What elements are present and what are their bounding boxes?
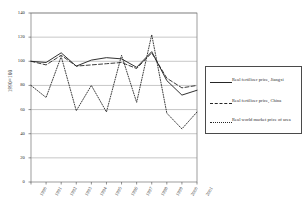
y-axis-tick-label: 120 [7,34,25,39]
legend-label-jiangxi: Real fertilizer price, Jiangxi [232,77,284,83]
y-axis-tick-label: 60 [7,107,25,112]
dotted-line-sample [210,118,232,126]
y-axis-tick-label: 140 [7,10,25,15]
solid-line-sample [210,78,232,86]
y-axis-tick-label: 40 [7,131,25,136]
chart-figure: 1990=100 Real fertilizer price, Jiangxi … [0,0,306,219]
y-axis-tick-label: 80 [7,82,25,87]
legend-entry-urea: Real world market price of urea [210,117,302,126]
legend-label-urea: Real world market price of urea [232,117,291,123]
legend-entry-jiangxi: Real fertilizer price, Jiangxi [210,77,302,86]
y-axis-tick-label: 100 [7,58,25,63]
chart-legend: Real fertilizer price, Jiangxi Real fert… [205,66,302,134]
legend-entry-china: Real fertilizer price, China [210,98,302,107]
y-axis-tick-label: 20 [7,155,25,160]
y-axis-tick-label: 0 [7,179,25,184]
legend-label-china: Real fertilizer price, China [232,98,281,104]
dashed-line-sample [210,99,232,107]
